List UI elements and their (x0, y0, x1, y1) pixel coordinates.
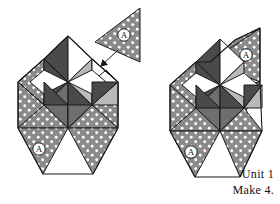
loose-piece-A[interactable]: A (95, 8, 140, 62)
label-A-right-top: A (243, 50, 250, 60)
caption-make-count: Make 4. (233, 184, 274, 197)
label-A-right-bottom: A (188, 147, 195, 157)
diagram-canvas: A A (0, 0, 280, 204)
caption-unit-name: Unit 1 (242, 168, 274, 181)
tri-bottom-right-point (68, 128, 118, 174)
label-A-loose: A (121, 30, 128, 40)
placement-arrow (101, 50, 118, 66)
unit-left-incomplete[interactable]: A (18, 36, 118, 174)
label-A-left-unit: A (36, 144, 43, 154)
unit-right-complete[interactable]: A A (170, 28, 262, 177)
